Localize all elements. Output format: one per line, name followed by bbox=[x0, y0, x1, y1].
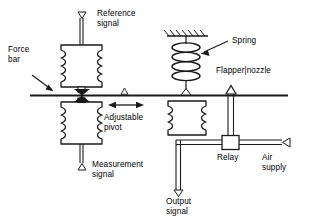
output-signal-line bbox=[176, 140, 222, 190]
relay-label: Relay bbox=[217, 153, 238, 163]
measurement-signal-line bbox=[80, 144, 83, 163]
relay-box bbox=[222, 136, 239, 150]
adjustable-pivot-label: Adjustable pivot bbox=[104, 113, 143, 132]
reference-signal-label: Reference signal bbox=[97, 9, 136, 28]
measurement-signal-label: Measurement signal bbox=[92, 160, 143, 179]
diagram-canvas bbox=[0, 0, 311, 222]
upper-bellows bbox=[61, 45, 102, 92]
spring-pointer-arrow bbox=[201, 41, 229, 56]
pneumatic-transmitter-diagram: Reference signal Force bar Measurement s… bbox=[0, 0, 311, 222]
output-signal-label: Output signal bbox=[166, 197, 191, 216]
measurement-signal-port-marker bbox=[78, 164, 86, 171]
output-signal-port-marker bbox=[174, 190, 183, 197]
nozzle-side-bellows bbox=[168, 101, 206, 135]
air-supply-port-marker bbox=[283, 138, 291, 147]
air-supply-label: Air supply bbox=[262, 153, 286, 172]
force-bar-label: Force bar bbox=[8, 45, 29, 64]
lower-bellows bbox=[61, 98, 102, 144]
adjustable-pivot-double-arrow bbox=[108, 102, 144, 108]
reference-signal-line bbox=[80, 18, 83, 45]
spring-label: Spring bbox=[232, 36, 256, 46]
adjustable-pivot-marker bbox=[121, 88, 128, 94]
spring-support-hatching bbox=[164, 30, 208, 36]
force-bar-pointer-arrow bbox=[32, 75, 54, 91]
range-spring bbox=[172, 36, 200, 95]
flapper-nozzle-label: Flapper|nozzle bbox=[216, 66, 271, 76]
air-supply-line bbox=[239, 140, 282, 145]
reference-signal-port-marker bbox=[78, 12, 86, 19]
